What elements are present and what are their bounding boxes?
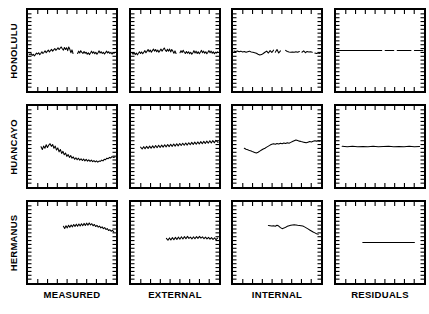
- col-label-residuals: RESIDUALS: [334, 289, 426, 300]
- panel-frame: [130, 201, 220, 284]
- col-label-internal: INTERNAL: [231, 289, 323, 300]
- row-label-hermanus: HERMANUS: [6, 200, 20, 285]
- panel-hermanus-internal: [231, 200, 323, 285]
- panel-huancayo-measured: [26, 104, 118, 189]
- panel-hermanus-measured: [26, 200, 118, 285]
- panel-hermanus-external: [129, 200, 221, 285]
- panel-huancayo-internal: [231, 104, 323, 189]
- panel-huancayo-external: [129, 104, 221, 189]
- panel-honolulu-measured: [26, 8, 118, 93]
- panel-honolulu-residuals: [334, 8, 426, 93]
- panel-honolulu-internal: [231, 8, 323, 93]
- panel-honolulu-external: [129, 8, 221, 93]
- panel-frame: [27, 105, 117, 188]
- row-label-honolulu: HONOLULU: [6, 8, 20, 93]
- panel-huancayo-residuals: [334, 104, 426, 189]
- col-label-measured: MEASURED: [26, 289, 118, 300]
- panel-hermanus-residuals: [334, 200, 426, 285]
- col-label-external: EXTERNAL: [129, 289, 221, 300]
- panel-frame: [232, 201, 322, 284]
- panel-frame: [27, 201, 117, 284]
- row-label-huancayo: HUANCAYO: [6, 104, 20, 189]
- figure-panel-grid: HONOLULUHUANCAYOHERMANUSMEASUREDEXTERNAL…: [0, 0, 429, 314]
- panel-frame: [232, 105, 322, 188]
